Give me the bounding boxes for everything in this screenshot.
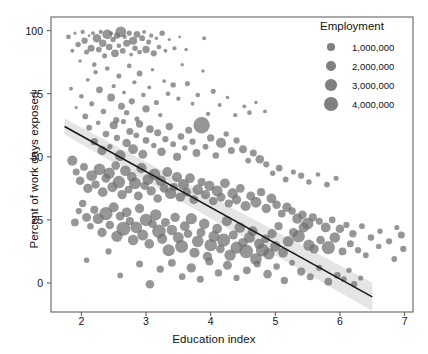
legend: Employment 1,000,0002,000,0003,000,0004,…: [318, 20, 422, 114]
bubble-chart-figure: 234567 0255075100 Education index Percen…: [0, 0, 428, 354]
x-axis-title: Education index: [0, 333, 428, 345]
legend-item: 4,000,000: [318, 95, 422, 113]
legend-entries: 1,000,0002,000,0003,000,0004,000,000: [318, 38, 422, 113]
x-tick-label: 4: [208, 315, 214, 327]
y-tick-label: 100: [15, 25, 43, 37]
legend-bubble-icon: [318, 61, 344, 71]
legend-bubble-icon: [318, 79, 344, 91]
legend-bubble: [324, 97, 338, 111]
x-tick-label: 3: [143, 315, 149, 327]
legend-bubble-icon: [318, 97, 344, 111]
legend-item: 2,000,000: [318, 57, 422, 75]
legend-item-label: 2,000,000: [352, 61, 394, 72]
x-tick-label: 6: [337, 315, 343, 327]
x-tick-label: 7: [402, 315, 408, 327]
y-axis-title: Percent of work days exposed: [28, 50, 40, 290]
legend-title: Employment: [320, 20, 422, 32]
legend-bubble: [325, 79, 337, 91]
legend-bubble: [327, 43, 335, 51]
legend-item: 3,000,000: [318, 76, 422, 94]
legend-item-label: 1,000,000: [352, 42, 394, 53]
legend-bubble: [326, 61, 336, 71]
legend-item-label: 3,000,000: [352, 80, 394, 91]
legend-bubble-icon: [318, 43, 344, 51]
legend-item: 1,000,000: [318, 38, 422, 56]
x-tick-label: 2: [78, 315, 84, 327]
x-tick-label: 5: [272, 315, 278, 327]
legend-item-label: 4,000,000: [352, 99, 394, 110]
